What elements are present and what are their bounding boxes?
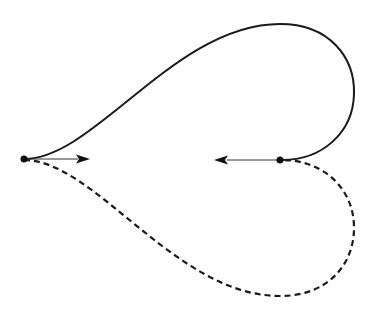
end-tangent-arrow [214, 156, 280, 165]
end-point [277, 157, 284, 164]
start-point [21, 156, 28, 163]
start-tangent-arrow [24, 155, 90, 164]
arrowhead-right-icon [76, 155, 90, 164]
lower-dashed-curve [24, 160, 354, 296]
curve-diagram [0, 0, 376, 311]
arrowhead-left-icon [214, 156, 228, 165]
upper-solid-curve [24, 24, 354, 160]
